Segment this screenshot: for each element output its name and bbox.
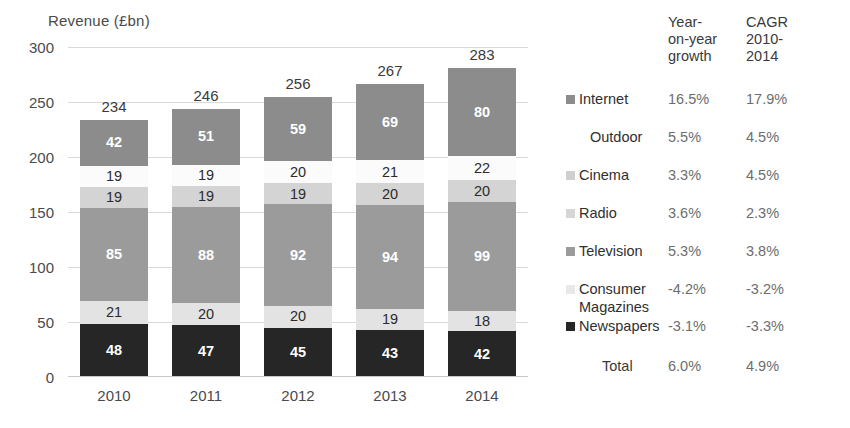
bar-2013[interactable]: 692120941943	[356, 84, 424, 377]
segment-value-label: 51	[198, 129, 214, 144]
bar-segment-2011-consumer-magazines[interactable]: 20	[172, 303, 240, 325]
bar-segment-2013-television[interactable]: 94	[356, 205, 424, 308]
segment-value-label: 19	[382, 312, 398, 327]
legend-row-television[interactable]: Television5.3%3.8%	[560, 242, 844, 262]
plot-area: 4219198521482345119198820472465920199220…	[68, 47, 528, 377]
bar-segment-2012-internet[interactable]: 59	[264, 97, 332, 162]
bar-segment-2010-television[interactable]: 85	[80, 208, 148, 302]
y-axis-tick-50: 50	[37, 314, 54, 331]
y-axis-labels: 300250200150100500	[0, 47, 60, 377]
y-axis-tick-200: 200	[29, 149, 54, 166]
segment-value-label: 19	[198, 168, 214, 183]
bar-total-2013: 267	[335, 62, 445, 79]
legend-growth-newspapers: -3.1%	[668, 317, 738, 336]
segment-value-label: 42	[474, 347, 490, 362]
legend-table: Year- on-year growth CAGR 2010- 2014 Int…	[560, 14, 844, 414]
legend-label-radio: Radio	[579, 204, 669, 223]
bar-segment-2012-television[interactable]: 92	[264, 204, 332, 305]
segment-value-label: 19	[106, 190, 122, 205]
segment-value-label: 99	[474, 249, 490, 264]
bars-container: 4219198521482345119198820472465920199220…	[68, 47, 528, 377]
legend-growth-total: 6.0%	[668, 357, 738, 376]
bar-2012[interactable]: 592019922045	[264, 97, 332, 377]
segment-value-label: 21	[106, 305, 122, 320]
bar-segment-2013-consumer-magazines[interactable]: 19	[356, 309, 424, 330]
legend-growth-television: 5.3%	[668, 242, 738, 261]
segment-value-label: 45	[290, 345, 306, 360]
legend-cagr-outdoor: 4.5%	[746, 128, 820, 147]
bar-segment-2014-internet[interactable]: 80	[448, 68, 516, 156]
segment-value-label: 69	[382, 115, 398, 130]
legend-cagr-cinema: 4.5%	[746, 166, 820, 185]
bar-segment-2011-internet[interactable]: 51	[172, 109, 240, 165]
segment-value-label: 92	[290, 248, 306, 263]
segment-value-label: 20	[290, 165, 306, 180]
bar-segment-2011-television[interactable]: 88	[172, 207, 240, 304]
legend-swatch-cinema-icon	[566, 171, 575, 180]
legend-cagr-newspapers: -3.3%	[746, 317, 820, 336]
bar-segment-2013-newspapers[interactable]: 43	[356, 330, 424, 377]
legend-label-consumer: Consumer	[579, 280, 669, 299]
bar-segment-2012-radio[interactable]: 19	[264, 183, 332, 204]
y-axis-tick-0: 0	[46, 369, 54, 386]
legend-header-cagr: CAGR 2010- 2014	[746, 14, 826, 65]
y-axis-tick-300: 300	[29, 39, 54, 56]
bar-segment-2014-newspapers[interactable]: 42	[448, 331, 516, 377]
x-axis-tick-2014: 2014	[427, 387, 537, 404]
legend-label-outdoor: Outdoor	[590, 128, 680, 147]
legend-label-television: Television	[579, 242, 669, 261]
legend-growth-internet: 16.5%	[668, 90, 738, 109]
legend-header-growth: Year- on-year growth	[668, 14, 746, 65]
legend-label-newspapers: Newspapers	[579, 317, 669, 336]
legend-row-consumer[interactable]: ConsumerMagazines-4.2%-3.2%	[560, 280, 844, 300]
bar-segment-2013-outdoor[interactable]: 21	[356, 160, 424, 183]
bar-total-2014: 283	[427, 46, 537, 63]
segment-value-label: 80	[474, 105, 490, 120]
bar-2010[interactable]: 421919852148	[80, 120, 148, 377]
legend-label-cinema: Cinema	[579, 166, 669, 185]
bar-segment-2010-outdoor[interactable]: 19	[80, 166, 148, 187]
legend-cagr-television: 3.8%	[746, 242, 820, 261]
segment-value-label: 42	[106, 135, 122, 150]
segment-value-label: 88	[198, 248, 214, 263]
bar-2014[interactable]: 802220991842	[448, 68, 516, 377]
legend-swatch-newspapers-icon	[566, 322, 575, 331]
bar-segment-2014-radio[interactable]: 20	[448, 180, 516, 202]
y-axis-tick-250: 250	[29, 94, 54, 111]
bar-segment-2011-radio[interactable]: 19	[172, 186, 240, 207]
legend-label-consumer-line2: Magazines	[579, 298, 649, 317]
legend-row-radio[interactable]: Radio3.6%2.3%	[560, 204, 844, 224]
segment-value-label: 20	[382, 187, 398, 202]
bar-segment-2010-consumer-magazines[interactable]: 21	[80, 301, 148, 324]
bar-segment-2011-newspapers[interactable]: 47	[172, 325, 240, 377]
legend-row-newspapers[interactable]: Newspapers-3.1%-3.3%	[560, 317, 844, 337]
segment-value-label: 21	[382, 165, 398, 180]
bar-segment-2012-newspapers[interactable]: 45	[264, 328, 332, 378]
bar-segment-2012-consumer-magazines[interactable]: 20	[264, 306, 332, 328]
bar-segment-2010-radio[interactable]: 19	[80, 187, 148, 208]
bar-segment-2014-outdoor[interactable]: 22	[448, 156, 516, 180]
bar-segment-2010-newspapers[interactable]: 48	[80, 324, 148, 377]
chart-title: Revenue (£bn)	[48, 12, 150, 29]
segment-value-label: 20	[474, 184, 490, 199]
legend-row-internet[interactable]: Internet16.5%17.9%	[560, 90, 844, 110]
bar-segment-2011-outdoor[interactable]: 19	[172, 165, 240, 186]
x-axis-line	[68, 376, 528, 377]
bar-segment-2014-television[interactable]: 99	[448, 202, 516, 311]
bar-segment-2010-internet[interactable]: 42	[80, 120, 148, 166]
y-axis-tick-150: 150	[29, 204, 54, 221]
legend-row-cinema[interactable]: Cinema3.3%4.5%	[560, 166, 844, 186]
bar-segment-2013-radio[interactable]: 20	[356, 183, 424, 205]
legend-growth-radio: 3.6%	[668, 204, 738, 223]
bar-2011[interactable]: 511919882047	[172, 109, 240, 377]
legend-swatch-radio-icon	[566, 209, 575, 218]
legend-row-outdoor[interactable]: Outdoor5.5%4.5%	[560, 128, 844, 148]
bar-segment-2012-outdoor[interactable]: 20	[264, 161, 332, 183]
bar-segment-2014-consumer-magazines[interactable]: 18	[448, 311, 516, 331]
bar-segment-2013-internet[interactable]: 69	[356, 84, 424, 160]
legend-row-total[interactable]: Total6.0%4.9%	[560, 357, 844, 377]
legend-growth-cinema: 3.3%	[668, 166, 738, 185]
segment-value-label: 19	[198, 189, 214, 204]
legend-cagr-radio: 2.3%	[746, 204, 820, 223]
segment-value-label: 43	[382, 346, 398, 361]
